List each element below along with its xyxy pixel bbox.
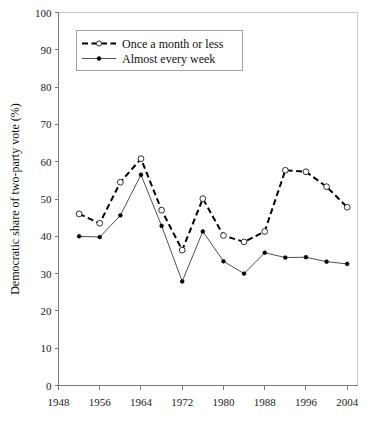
- y-tick-label-60: 60: [41, 156, 53, 168]
- x-tick-label-1996: 1996: [295, 396, 318, 408]
- data-point-once-a-month-or-less-1984: [241, 239, 247, 245]
- data-point-almost-every-week-1996: [304, 255, 308, 259]
- y-tick-label-0: 0: [46, 380, 52, 392]
- x-axis-ticks: 19481956196419721980198819962004: [48, 386, 359, 408]
- series-once-a-month-or-less: [76, 156, 350, 253]
- data-point-once-a-month-or-less-1952: [76, 211, 82, 217]
- x-tick-label-1988: 1988: [254, 396, 277, 408]
- data-point-once-a-month-or-less-1968: [159, 207, 165, 213]
- chart-legend: Once a month or less Almost every week: [77, 31, 243, 71]
- data-point-almost-every-week-1972: [180, 280, 184, 284]
- data-point-once-a-month-or-less-1976: [200, 196, 206, 202]
- legend-marker-filled-circle-icon: [97, 57, 101, 61]
- y-axis-title: Democratic share of two-party vote (%): [8, 103, 22, 295]
- chart-figure: 0102030405060708090100 19481956196419721…: [0, 0, 369, 428]
- x-tick-label-1972: 1972: [171, 396, 193, 408]
- x-tick-label-1956: 1956: [89, 396, 112, 408]
- y-tick-label-20: 20: [41, 305, 53, 317]
- line-chart: 0102030405060708090100 19481956196419721…: [0, 0, 369, 428]
- y-tick-label-70: 70: [41, 118, 53, 130]
- data-point-once-a-month-or-less-1988: [262, 229, 268, 235]
- data-series-group: [76, 156, 350, 284]
- legend-label-1: Almost every week: [122, 52, 215, 66]
- data-point-once-a-month-or-less-1980: [221, 233, 227, 239]
- x-tick-label-1980: 1980: [212, 396, 235, 408]
- data-point-almost-every-week-2004: [345, 262, 349, 266]
- data-point-once-a-month-or-less-1992: [282, 167, 288, 173]
- y-tick-label-10: 10: [41, 342, 53, 354]
- x-tick-label-1948: 1948: [48, 396, 71, 408]
- data-point-almost-every-week-1956: [98, 235, 102, 239]
- y-tick-label-40: 40: [41, 230, 53, 242]
- data-point-once-a-month-or-less-1956: [97, 220, 103, 226]
- series-line-almost-every-week: [79, 175, 347, 282]
- data-point-almost-every-week-1988: [263, 251, 267, 255]
- data-point-once-a-month-or-less-2000: [324, 184, 330, 190]
- data-point-almost-every-week-1960: [118, 214, 122, 218]
- data-point-almost-every-week-1964: [139, 173, 143, 177]
- x-tick-label-2004: 2004: [336, 396, 359, 408]
- y-tick-label-90: 90: [41, 44, 53, 56]
- data-point-almost-every-week-2000: [325, 260, 329, 264]
- data-point-once-a-month-or-less-1964: [138, 156, 144, 162]
- y-axis-ticks: 0102030405060708090100: [35, 7, 59, 392]
- data-point-once-a-month-or-less-1960: [117, 179, 123, 185]
- y-tick-label-100: 100: [35, 7, 52, 19]
- data-point-almost-every-week-1952: [77, 234, 81, 238]
- series-almost-every-week: [77, 173, 349, 283]
- data-point-almost-every-week-1976: [201, 230, 205, 234]
- legend-label-0: Once a month or less: [122, 37, 224, 51]
- y-tick-label-50: 50: [41, 193, 53, 205]
- data-point-almost-every-week-1980: [222, 259, 226, 263]
- data-point-almost-every-week-1968: [160, 224, 164, 228]
- data-point-once-a-month-or-less-2004: [344, 204, 350, 210]
- legend-marker-open-circle-icon: [96, 41, 101, 46]
- data-point-once-a-month-or-less-1996: [303, 169, 309, 175]
- x-tick-label-1964: 1964: [130, 396, 153, 408]
- data-point-almost-every-week-1984: [242, 272, 246, 276]
- data-point-almost-every-week-1992: [283, 256, 287, 260]
- data-point-once-a-month-or-less-1972: [179, 247, 185, 253]
- y-tick-label-30: 30: [41, 268, 53, 280]
- y-tick-label-80: 80: [41, 81, 53, 93]
